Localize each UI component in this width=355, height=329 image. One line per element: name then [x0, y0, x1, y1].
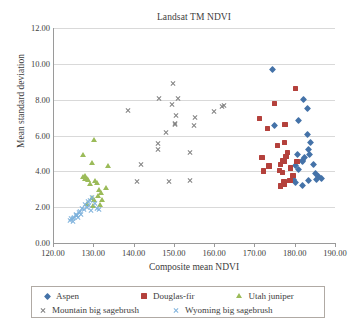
- data-point: [91, 197, 97, 202]
- data-point: [91, 137, 97, 142]
- data-point: [75, 215, 81, 221]
- data-point: [134, 178, 140, 184]
- data-point: [89, 195, 95, 201]
- legend-item[interactable]: Mountain big sagebrush: [38, 305, 139, 315]
- data-point: [191, 123, 197, 129]
- y-tick-label: 2.00: [10, 202, 50, 212]
- data-point: [170, 81, 176, 87]
- data-point: [299, 182, 306, 189]
- y-axis-tick-labels: 0.002.004.006.008.0010.0012.00: [6, 28, 50, 243]
- legend-item-label: Aspen: [56, 291, 79, 301]
- legend-item[interactable]: Utah juniper: [235, 291, 294, 301]
- data-point: [89, 195, 95, 200]
- gridline: [53, 136, 335, 137]
- triangle-icon: [235, 291, 245, 301]
- data-point: [155, 147, 161, 153]
- data-point: [292, 162, 299, 169]
- data-point: [285, 150, 290, 155]
- data-point: [156, 96, 162, 102]
- data-point: [77, 208, 83, 214]
- data-point: [300, 96, 307, 103]
- data-point: [96, 187, 102, 192]
- x-axis-title: Composite mean NDVI: [53, 262, 335, 272]
- data-point: [85, 199, 91, 205]
- data-point: [84, 176, 90, 181]
- x-tick-label: 130.00: [70, 248, 116, 258]
- x-tick-label: 190.00: [312, 248, 355, 258]
- x-tick-label: 180.00: [272, 248, 318, 258]
- legend-item[interactable]: Douglas-fir: [139, 291, 195, 301]
- data-point: [68, 216, 74, 222]
- gridline: [53, 100, 335, 101]
- x-tick-mark: [53, 243, 54, 247]
- data-point: [73, 213, 79, 219]
- x-tick-mark: [174, 243, 175, 247]
- data-point: [103, 185, 109, 190]
- data-point: [87, 181, 93, 186]
- data-point: [282, 182, 287, 187]
- gridline: [53, 207, 335, 208]
- data-point: [290, 173, 295, 178]
- data-point: [304, 146, 311, 153]
- data-point: [82, 176, 88, 181]
- data-point: [315, 173, 322, 180]
- data-point: [310, 161, 317, 168]
- data-point: [265, 126, 270, 131]
- data-point: [305, 177, 312, 184]
- data-point: [275, 143, 280, 148]
- data-point: [78, 211, 84, 217]
- plot-area: [53, 28, 335, 243]
- data-point: [80, 174, 86, 179]
- data-point: [288, 165, 293, 170]
- chart-title: Landsat TM NDVI: [53, 12, 335, 22]
- data-point: [283, 154, 288, 159]
- x-tick-mark: [254, 243, 255, 247]
- data-point: [99, 197, 105, 202]
- data-point: [187, 177, 193, 183]
- gridline: [53, 64, 335, 65]
- data-point: [272, 101, 277, 106]
- legend-item[interactable]: Aspen: [42, 291, 79, 301]
- x-tick-mark: [214, 243, 215, 247]
- data-point: [318, 175, 325, 182]
- data-point: [172, 120, 178, 126]
- data-point: [301, 154, 308, 161]
- data-point: [293, 86, 298, 91]
- data-point: [88, 208, 94, 214]
- data-point: [175, 96, 181, 102]
- data-point: [192, 115, 198, 121]
- legend-item-label: Utah juniper: [249, 291, 294, 301]
- data-point: [90, 203, 96, 208]
- data-point: [221, 102, 227, 108]
- data-point: [299, 157, 306, 164]
- data-point: [282, 122, 287, 127]
- data-point: [271, 122, 278, 129]
- legend-item-label: Douglas-fir: [153, 291, 195, 301]
- data-point: [266, 163, 271, 168]
- data-point: [81, 206, 87, 212]
- data-point: [96, 207, 102, 213]
- data-point: [292, 179, 299, 186]
- x-tick-mark: [93, 243, 94, 247]
- x-tick-label: 150.00: [151, 248, 197, 258]
- chart-figure: Landsat TM NDVI 0.002.004.006.008.0010.0…: [0, 0, 355, 329]
- x-tick-label: 170.00: [231, 248, 277, 258]
- data-point: [295, 166, 302, 173]
- data-point: [187, 150, 193, 156]
- data-point: [277, 168, 282, 173]
- data-point: [281, 179, 286, 184]
- data-point: [299, 158, 306, 165]
- data-point: [85, 177, 91, 182]
- data-point: [89, 160, 95, 165]
- data-point: [257, 116, 262, 121]
- data-point: [92, 178, 98, 183]
- legend-item[interactable]: Wyoming big sagebrush: [171, 305, 272, 315]
- data-point: [313, 176, 320, 183]
- data-point: [307, 139, 314, 146]
- legend-item-label: Mountain big sagebrush: [52, 305, 139, 315]
- data-point: [73, 211, 79, 217]
- x-tick-mark: [295, 243, 296, 247]
- data-point: [95, 193, 101, 198]
- data-point: [304, 105, 311, 112]
- data-point: [86, 202, 92, 208]
